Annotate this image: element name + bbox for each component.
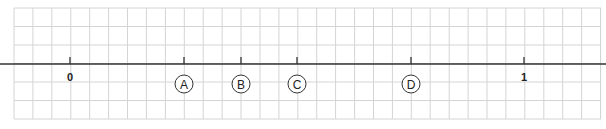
- tick-label: 0: [67, 71, 73, 83]
- tick-0: 0: [67, 57, 73, 83]
- tick-label: 1: [521, 71, 527, 83]
- tick-b: B: [232, 57, 250, 93]
- point-label: A: [180, 78, 188, 92]
- number-line-diagram: 0ABCD1: [0, 0, 606, 129]
- point-label: D: [407, 78, 416, 92]
- tick-marks: 0ABCD1: [67, 57, 527, 93]
- point-label: B: [237, 78, 245, 92]
- tick-1: 1: [521, 57, 527, 83]
- tick-d: D: [402, 57, 420, 93]
- number-line-canvas: 0ABCD1: [0, 0, 606, 129]
- point-label: C: [293, 78, 302, 92]
- tick-a: A: [175, 57, 193, 93]
- tick-c: C: [288, 57, 306, 93]
